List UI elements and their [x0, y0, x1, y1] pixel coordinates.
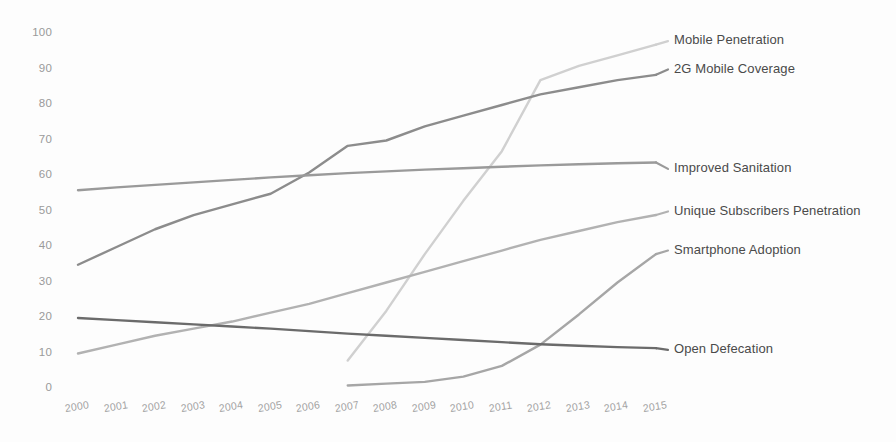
series-label-smartphone-adoption: Smartphone Adoption	[674, 242, 801, 257]
series-label-open-defecation: Open Defecation	[674, 341, 773, 356]
series-label-improved-sanitation: Improved Sanitation	[674, 160, 792, 175]
series-label-unique-subscribers-penetration: Unique Subscribers Penetration	[674, 203, 861, 218]
line-chart: 0102030405060708090100200020012002200320…	[0, 0, 896, 442]
series-labels: Mobile Penetration2G Mobile CoverageImpr…	[0, 0, 896, 442]
series-label-2g-mobile-coverage: 2G Mobile Coverage	[674, 61, 795, 76]
series-label-mobile-penetration: Mobile Penetration	[674, 32, 784, 47]
